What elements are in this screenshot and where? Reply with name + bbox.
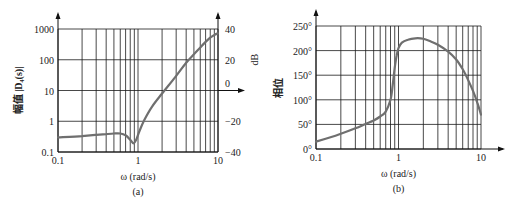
x-tick-label: 10 — [476, 152, 486, 163]
y-tick-label-right: −40 — [225, 147, 241, 158]
x-tick-label: 1 — [396, 152, 401, 163]
y-axis-label: 幅值 |D₄(s)| — [12, 67, 25, 115]
y-tick-label: 250° — [293, 21, 312, 32]
zero-db-axis-arrow-icon — [238, 88, 245, 93]
y-tick-label: 150° — [293, 70, 312, 81]
y-tick-label: 10 — [44, 86, 54, 97]
y-tick-label: 1 — [49, 116, 54, 127]
x-tick-label: 0.1 — [310, 152, 323, 163]
panel-caption: (a) — [132, 186, 143, 198]
panel-b-phase: 0°50°100°150°200°250°0.1110ω (rad/s)(b)相… — [272, 9, 505, 195]
y-tick-label: 50° — [298, 119, 312, 130]
x-tick-label: 1 — [136, 155, 141, 166]
x-axis-label: ω (rad/s) — [120, 171, 155, 183]
chart-canvas: 40200−20−40dB0.111010010000.1110ω (rad/s… — [0, 0, 515, 205]
y-tick-label: 200° — [293, 46, 312, 57]
y-tick-label: 100 — [39, 55, 54, 66]
y-axis-arrow-icon — [56, 12, 61, 19]
x-tick-label: 10 — [213, 155, 223, 166]
y-axis-label-right: dB — [249, 54, 260, 66]
x-axis-arrow-icon — [498, 147, 505, 152]
x-tick-label: 0.1 — [52, 155, 65, 166]
panel-caption: (b) — [393, 183, 405, 195]
panel-a-magnitude: 40200−20−40dB0.111010010000.1110ω (rad/s… — [12, 12, 260, 198]
y-tick-label-right: 20 — [225, 55, 235, 66]
y-tick-label-right: 0 — [225, 78, 230, 89]
y-tick-label-right: 40 — [225, 24, 235, 35]
y-tick-label: 1000 — [34, 24, 54, 35]
right-y-axis-arrow-icon — [216, 12, 221, 19]
y-axis-label: 相位 — [272, 78, 284, 98]
y-tick-label: 100° — [293, 95, 312, 106]
y-tick-label-right: −20 — [225, 116, 241, 127]
y-axis-arrow-icon — [314, 9, 319, 16]
x-axis-label: ω (rad/s) — [381, 168, 416, 180]
